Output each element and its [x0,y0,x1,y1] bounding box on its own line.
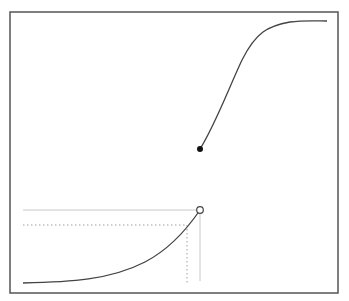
plot-frame [10,12,338,293]
diagram-canvas [0,0,349,301]
upper-branch-curve [200,21,327,149]
lower-branch-curve [23,210,200,283]
closed-endpoint-marker [197,146,203,152]
function-plot [0,0,349,301]
open-endpoint-marker [197,207,204,214]
